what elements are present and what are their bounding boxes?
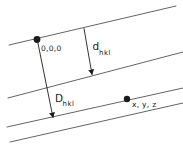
lattice-plane-line-2 (8, 52, 183, 98)
diagram-svg: 0,0,0 x, y, z d hkl D hkl (0, 0, 183, 154)
D-distance-subscript: hkl (63, 100, 75, 108)
origin-point-label: 0,0,0 (41, 44, 62, 53)
xyz-point-dot (124, 96, 130, 102)
diagram-canvas: 0,0,0 x, y, z d hkl D hkl (0, 0, 183, 154)
origin-point-dot (34, 36, 41, 43)
lattice-planes-group (7, 6, 183, 142)
lattice-plane-line-3 (7, 88, 183, 127)
lattice-plane-line-4 (10, 103, 183, 142)
d-spacing-arrow (84, 29, 92, 75)
d-spacing-subscript: hkl (99, 49, 111, 57)
xyz-point-label: x, y, z (132, 100, 156, 109)
